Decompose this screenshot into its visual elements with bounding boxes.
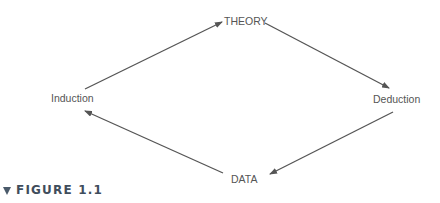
figure-caption: FIGURE 1.1 — [3, 184, 103, 196]
figure-caption-text: FIGURE 1.1 — [16, 184, 103, 196]
research-cycle-diagram: THEORY Induction Deduction DATA — [0, 0, 440, 203]
arrow-deduction-to-data — [270, 112, 393, 174]
arrow-data-to-induction — [85, 111, 223, 173]
node-deduction: Deduction — [373, 94, 420, 105]
triangle-down-icon — [3, 187, 11, 195]
arrow-induction-to-theory — [85, 22, 222, 89]
node-data: DATA — [231, 174, 257, 185]
node-theory: THEORY — [224, 16, 268, 27]
arrow-theory-to-deduction — [265, 23, 389, 88]
node-induction: Induction — [51, 93, 94, 104]
